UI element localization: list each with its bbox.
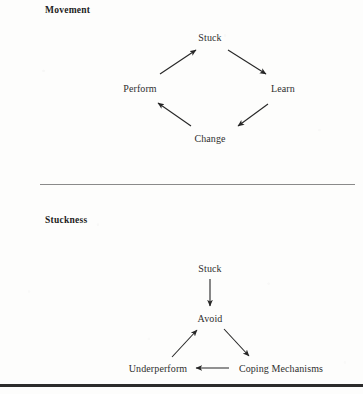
arrow-layer	[0, 0, 363, 394]
arrow-perform-to-stuck	[160, 50, 196, 74]
arrow-change-to-perform	[158, 103, 191, 126]
arrow-underperform-to-avoid	[172, 330, 197, 357]
arrow-avoid-to-coping-mechanisms	[224, 329, 249, 356]
arrow-learn-to-change	[238, 104, 268, 126]
figure-page: Movement Stuck Learn Change Perform Stuc…	[0, 0, 363, 394]
arrow-stuck-to-learn	[228, 50, 266, 74]
